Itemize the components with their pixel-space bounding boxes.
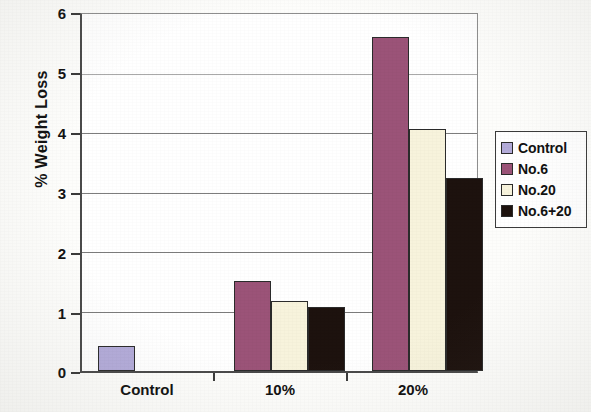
bar-10pct-no6-20 (308, 307, 345, 371)
legend-item-no20: No.20 (501, 179, 582, 200)
y-tick-mark-3 (71, 193, 80, 195)
bar-20pct-no6-20 (446, 178, 483, 371)
bar-control-control (98, 346, 135, 371)
bar-10pct-no20 (271, 301, 308, 371)
y-tick-mark-6 (71, 13, 80, 15)
legend-swatch-control (501, 142, 513, 154)
legend-label-no6: No.6 (518, 161, 548, 177)
x-tick-mark-1 (213, 373, 215, 381)
legend-swatch-no20 (501, 184, 513, 196)
y-tick-mark-2 (71, 253, 80, 255)
bar-chart-figure: % Weight Loss 6 5 4 3 2 1 0 Control (0, 0, 591, 412)
x-tick-label-control: Control (82, 381, 212, 398)
legend-label-no6-20: No.6+20 (518, 203, 571, 219)
y-tick-label-3: 3 (36, 185, 66, 202)
bar-10pct-no6 (234, 281, 271, 371)
y-tick-label-1: 1 (36, 305, 66, 322)
y-tick-label-0: 0 (36, 364, 66, 381)
chart-legend: Control No.6 No.20 No.6+20 (495, 131, 587, 228)
y-tick-label-5: 5 (36, 65, 66, 82)
y-tick-label-2: 2 (36, 245, 66, 262)
y-tick-mark-4 (71, 133, 80, 135)
bar-20pct-no20 (409, 129, 446, 371)
legend-item-control: Control (501, 137, 582, 158)
x-tick-mark-2 (346, 373, 348, 381)
gridline-5 (82, 74, 477, 75)
legend-label-no20: No.20 (518, 182, 556, 198)
x-tick-label-10pct: 10% (215, 381, 345, 398)
bar-20pct-no6 (372, 37, 409, 371)
y-tick-label-4: 4 (36, 125, 66, 142)
y-tick-mark-1 (71, 313, 80, 315)
y-tick-mark-0 (71, 372, 80, 374)
x-tick-label-20pct: 20% (348, 381, 478, 398)
y-tick-mark-5 (71, 73, 80, 75)
y-tick-label-6: 6 (36, 5, 66, 22)
legend-swatch-no6-20 (501, 205, 513, 217)
plot-area (80, 13, 478, 373)
legend-item-no6-20: No.6+20 (501, 200, 582, 221)
legend-label-control: Control (518, 140, 567, 156)
legend-item-no6: No.6 (501, 158, 582, 179)
legend-swatch-no6 (501, 163, 513, 175)
